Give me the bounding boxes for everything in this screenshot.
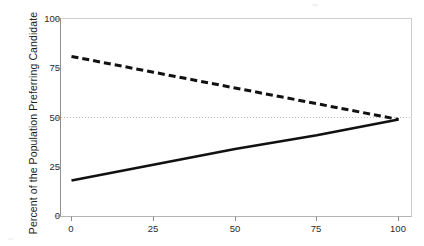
y-axis-ticks [56,19,61,216]
chart-figure: Percent of the Population Preferring Can… [0,0,424,246]
x-axis-ticks [72,217,399,222]
plot-area [0,0,424,246]
